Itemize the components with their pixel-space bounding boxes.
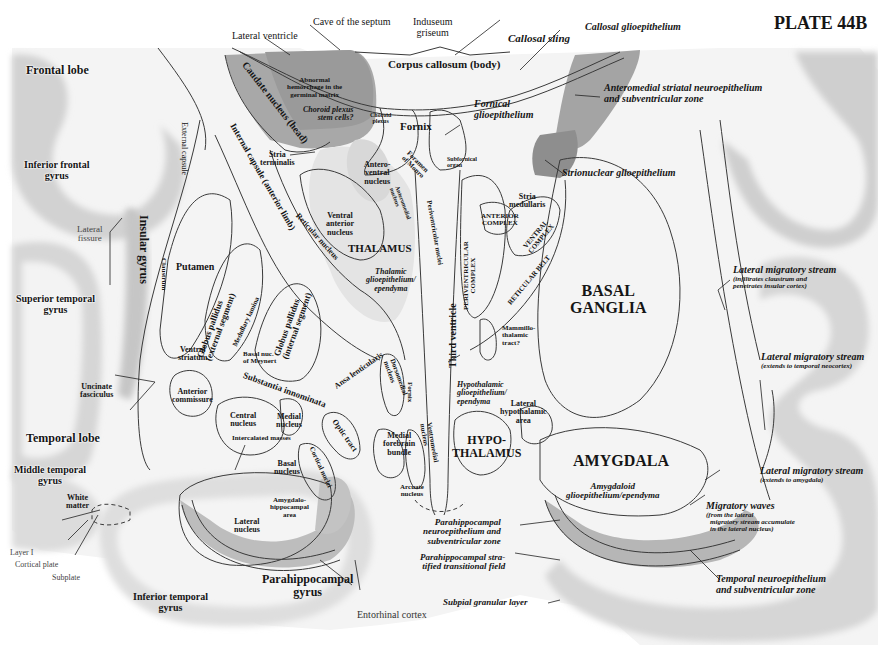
label-arcuate-nucleus: Arcuate nucleus: [400, 484, 424, 499]
label-basal-nucleus: Basal nucleus: [274, 460, 300, 477]
label-choroid-plexus-stem-cells: Choroid plexus stem cells?: [303, 106, 353, 123]
induseum-outline: [355, 47, 510, 55]
label-line: BASAL: [570, 283, 646, 300]
label-lms-temporal: Lateral migratory stream (extends to tem…: [761, 352, 864, 370]
label-line: nucleus: [364, 178, 391, 186]
label-lateral-ventricle: Lateral ventricle: [232, 31, 298, 42]
label-line: Superior temporal: [16, 294, 95, 305]
label-line: subventricular zone: [423, 537, 501, 546]
label-line: fissure: [77, 234, 102, 243]
label-parahippocampal-gyrus: Parahippocampal gyrus: [262, 573, 353, 598]
label-line: COMPLEX: [481, 220, 519, 227]
label-line: nucleus: [326, 229, 354, 237]
label-lms-insular: Lateral migratory stream (infiltrates cl…: [733, 265, 836, 290]
label-amygdalo-hippocampal-area: Amygdalo- hippocampal area: [270, 497, 309, 519]
label-line: Inferior frontal: [24, 160, 89, 171]
label-lateral-fissure: Lateral fissure: [77, 225, 102, 244]
label-line: tified transitional field: [420, 562, 505, 571]
label-subfornical-organ: Subfornical organ: [447, 156, 477, 169]
label-line: Lateral migratory stream: [733, 265, 836, 276]
label-line: gyrus: [24, 171, 89, 182]
label-frontal-lobe: Frontal lobe: [26, 64, 89, 77]
label-thalamic-glioepithelium: Thalamic glioepithelium/ ependyma: [366, 268, 416, 293]
label-parahippocampal-neuroepithelium: Parahippocampal neuroepithelium and subv…: [423, 518, 501, 546]
label-line: nucleus: [234, 526, 260, 534]
label-line: GANGLIA: [570, 300, 646, 317]
label-line: bundle: [383, 449, 415, 457]
label-putamen: Putamen: [176, 262, 214, 273]
label-callosal-sling: Callosal sling: [508, 33, 570, 45]
label-lateral-hypothalamic-area: Lateral hypothalamic area: [500, 400, 547, 425]
label-ventral-anterior-nucleus: Ventral anterior nucleus: [326, 212, 354, 237]
label-fornical-glioepithelium: Fornical glioepithelium: [474, 99, 533, 120]
label-central-nucleus: Central nucleus: [230, 412, 256, 429]
label-line: glioepithelium: [474, 110, 533, 121]
label-lateral-nucleus: Lateral nucleus: [234, 518, 260, 535]
label-line: (extends to temporal neocortex): [761, 363, 864, 370]
label-line: Migratory waves: [706, 501, 795, 512]
label-line: Anteromedial striatal neuroepithelium: [604, 83, 762, 94]
label-line: gyrus: [133, 603, 208, 614]
label-cortical-plate: Cortical plate: [15, 561, 58, 569]
label-line: terminalis: [260, 159, 295, 167]
label-basal-nuc-meynert: Basal nuc. of Meynert: [243, 351, 276, 366]
label-lms-amygdala: Lateral migratory stream (extends to amy…: [760, 466, 863, 484]
label-subpial-granular-layer: Subpial granular layer: [443, 598, 528, 607]
label-line: Parahippocampal: [262, 573, 353, 586]
plate-title: PLATE 44B: [774, 14, 867, 33]
label-abnormal-hemorrhage: Abnormal hemorrhage in the germinal matr…: [287, 77, 342, 99]
label-line: fasciculus: [80, 391, 113, 399]
label-parahippocampal-stratified: Parahippocampal stra- tified transitiona…: [420, 553, 505, 572]
label-line: gyrus: [16, 305, 95, 316]
label-strionuclear-glioepithelium: Strionuclear glioepithelium: [562, 168, 676, 179]
label-stria-medullaris: Stria medullaris: [509, 193, 545, 210]
label-line: area: [500, 417, 547, 425]
label-cave-of-septum: Cave of the septum: [313, 17, 390, 28]
label-line: nucleus: [276, 421, 302, 429]
label-medial-nucleus: Medial nucleus: [276, 413, 302, 430]
label-subplate: Subplate: [52, 574, 80, 582]
label-hypothalamus: HYPO- THALAMUS: [452, 434, 521, 459]
label-line: organ: [447, 162, 477, 168]
label-line: Fornical: [474, 99, 533, 110]
label-line: plexus: [370, 118, 391, 124]
label-ventral-striatum: Ventral striatum: [178, 346, 207, 363]
label-line: gyrus: [14, 476, 86, 487]
label-fornix-small: Fornix: [406, 382, 413, 402]
label-line: striatum: [178, 354, 207, 362]
label-line: in the lateral nucleus): [706, 526, 795, 533]
label-line: matter: [66, 502, 89, 510]
label-line: Temporal neuroepithelium: [716, 574, 826, 585]
label-anterior-complex: ANTERIOR COMPLEX: [481, 213, 519, 228]
label-callosal-glioepithelium: Callosal glioepithelium: [585, 22, 681, 33]
label-insular-gyrus: Insular gyrus: [137, 215, 150, 284]
label-middle-temporal-gyrus: Middle temporal gyrus: [14, 465, 86, 486]
label-line: commissure: [172, 396, 213, 404]
label-external-capsule: External capsule: [180, 122, 188, 175]
label-entorhinal-cortex: Entorhinal cortex: [357, 610, 427, 621]
label-line: glioepithelium/ependyma: [566, 491, 660, 500]
superior-temporal-inner: [22, 261, 83, 458]
label-fornix: Fornix: [400, 121, 432, 133]
label-inferior-temporal-gyrus: Inferior temporal gyrus: [133, 592, 208, 613]
label-line: Lateral migratory stream: [760, 466, 863, 477]
label-line: and subventricular zone: [716, 585, 826, 596]
label-line: and subventricular zone: [604, 94, 762, 105]
label-line: germinal matrix: [287, 92, 342, 99]
label-line: penetrates insular cortex): [733, 283, 836, 290]
label-stria-terminalis: Stria terminalis: [260, 151, 295, 168]
label-third-ventricle: Third ventricle: [448, 303, 459, 368]
label-white-matter: White matter: [66, 494, 89, 511]
label-amygdaloid-glioepithelium: Amygdaloid glioepithelium/ependyma: [566, 482, 660, 501]
label-migratory-waves: Migratory waves (from the lateral migrat…: [706, 501, 795, 534]
label-line: stem cells?: [303, 114, 353, 122]
label-line: Middle temporal: [14, 465, 86, 476]
plate-44b-diagram: PLATE 44B Cave of the septum Lateral ven…: [0, 0, 878, 645]
label-temporal-neuroepithelium: Temporal neuroepithelium and subventricu…: [716, 574, 826, 595]
label-line: tract?: [502, 340, 535, 347]
label-medial-forebrain-bundle: Medial forebrain bundle: [383, 432, 415, 457]
label-line: griseum: [413, 28, 452, 39]
label-layer-i: Layer I: [10, 549, 33, 557]
label-line: nucleus: [400, 491, 424, 498]
label-intercalated-masses: Intercalated masses: [232, 435, 291, 442]
